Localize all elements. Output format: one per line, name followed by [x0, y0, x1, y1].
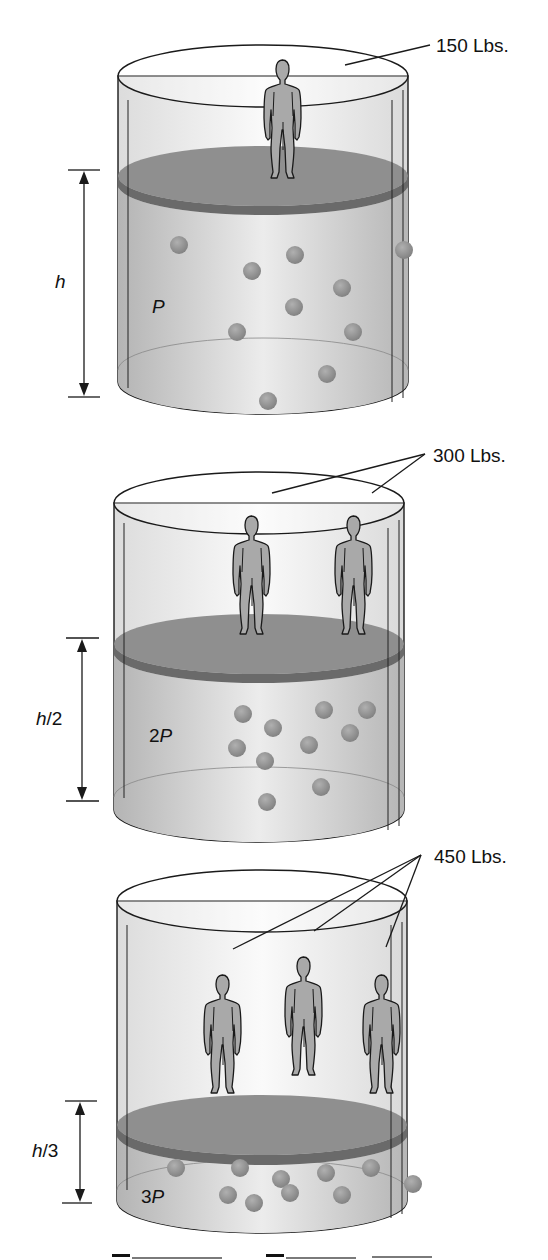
pressure-label: 3P [141, 1186, 165, 1207]
piston [117, 1095, 407, 1155]
cylinder-rim [117, 870, 407, 932]
boyles-law-diagram: 150 Lbs. h P [0, 0, 548, 1260]
gas-particle [245, 1194, 263, 1212]
gas-particle [395, 241, 413, 259]
gas-particle [234, 705, 252, 723]
gas-particle [333, 1186, 351, 1204]
gas-particle [231, 1159, 249, 1177]
height-label: h/2 [36, 708, 62, 729]
gas-particle [318, 365, 336, 383]
weight-label: 450 Lbs. [434, 846, 507, 867]
height-dimension [62, 1101, 97, 1203]
weight-label: 300 Lbs. [433, 445, 506, 466]
weight-label: 150 Lbs. [436, 35, 509, 56]
gas-particle [228, 739, 246, 757]
height-dimension [68, 170, 100, 397]
height-label: h/3 [32, 1140, 58, 1161]
height-label: h [55, 271, 66, 292]
gas-particle [167, 1159, 185, 1177]
gas-particle [317, 1164, 335, 1182]
gas-particle [243, 262, 261, 280]
gas-particle [315, 701, 333, 719]
piston [118, 146, 408, 206]
gas-particle [286, 246, 304, 264]
pressure-label: 2P [149, 725, 173, 746]
gas-particle [358, 701, 376, 719]
gas-particle [344, 323, 362, 341]
panel-3: 450 Lbs. h/3 3P [32, 846, 507, 1233]
gas-particle [170, 236, 188, 254]
gas-particle [333, 279, 351, 297]
caption-truncated [112, 1254, 432, 1259]
leader-line [372, 454, 425, 493]
gas-particle [312, 778, 330, 796]
gas-particle [228, 323, 246, 341]
pressure-label: P [152, 296, 165, 317]
gas-particle [256, 752, 274, 770]
gas-particle [404, 1175, 422, 1193]
gas-particle [285, 298, 303, 316]
gas-particle [259, 392, 277, 410]
gas-particle [264, 719, 282, 737]
gas-particle [219, 1186, 237, 1204]
height-dimension [66, 638, 99, 801]
gas-particle [362, 1159, 380, 1177]
gas-particle [300, 736, 318, 754]
gas-particle [281, 1184, 299, 1202]
panel-1: 150 Lbs. h P [55, 0, 509, 414]
gas-particle [258, 793, 276, 811]
gas-particle [341, 724, 359, 742]
cylinder-rim [118, 45, 408, 107]
